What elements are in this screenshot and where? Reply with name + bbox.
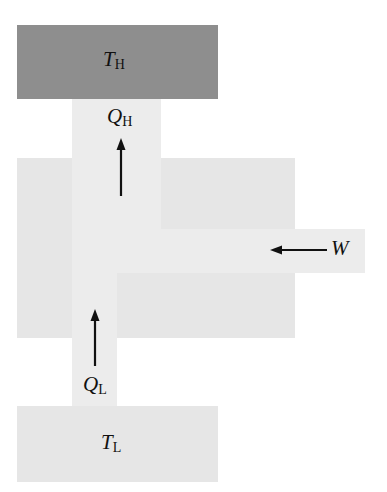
work-label: W bbox=[331, 236, 349, 261]
heat-out-arrow-icon bbox=[115, 138, 127, 198]
work-arrow-icon bbox=[270, 244, 328, 256]
heat-in-label: QL bbox=[83, 372, 107, 398]
energy-flow-diagram: TH TL QH QL W bbox=[0, 0, 387, 492]
hot-reservoir-label: TH bbox=[103, 47, 125, 73]
heat-in-arrow-icon bbox=[89, 309, 101, 367]
heat-out-label: QH bbox=[107, 104, 132, 130]
cold-reservoir-label: TL bbox=[101, 430, 121, 456]
